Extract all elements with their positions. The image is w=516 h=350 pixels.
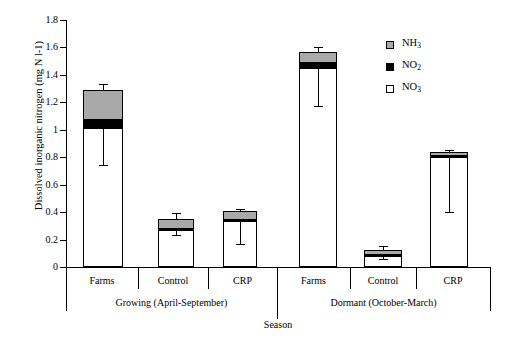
x-category-label: Control bbox=[350, 275, 416, 286]
bar-segment-nh3 bbox=[430, 152, 468, 155]
y-tick-mark bbox=[60, 102, 66, 103]
legend-swatch-no3 bbox=[386, 85, 394, 93]
legend-swatch-no2 bbox=[386, 63, 394, 71]
y-tick-label-wrap: 1.8 bbox=[0, 15, 58, 25]
y-axis-line bbox=[66, 20, 67, 268]
y-tick-mark bbox=[60, 185, 66, 186]
y-tick-label: 1.6 bbox=[0, 42, 58, 52]
legend-label-subscript: 2 bbox=[417, 63, 421, 72]
error-bar-no3-line bbox=[449, 157, 450, 212]
y-tick-label: 0.8 bbox=[0, 152, 58, 162]
x-group-separator bbox=[490, 289, 491, 311]
error-bar-no3-cap bbox=[236, 244, 245, 245]
x-category-label: Control bbox=[138, 275, 208, 286]
y-axis-title: Dissolved inorganic nitrogen (mg N l-1) bbox=[33, 16, 44, 236]
y-tick-label: 1 bbox=[0, 125, 58, 135]
x-category-label: CRP bbox=[208, 275, 277, 286]
y-tick-label-wrap: 0.4 bbox=[0, 207, 58, 217]
y-tick-label: 0.2 bbox=[0, 235, 58, 245]
x-category-label: CRP bbox=[416, 275, 490, 286]
y-tick-label-wrap: 1.2 bbox=[0, 97, 58, 107]
bar-0 bbox=[83, 90, 123, 267]
x-category-label: Farms bbox=[277, 275, 350, 286]
error-bar-no3-cap bbox=[379, 259, 388, 260]
error-bar-total-cap bbox=[445, 150, 454, 151]
y-tick-mark bbox=[60, 157, 66, 158]
error-bar-total-cap bbox=[314, 47, 323, 48]
bar-1 bbox=[158, 219, 194, 267]
error-bar-total-cap bbox=[172, 213, 181, 214]
y-tick-label: 1.4 bbox=[0, 70, 58, 80]
y-tick-mark bbox=[60, 20, 66, 21]
y-tick-mark bbox=[60, 75, 66, 76]
y-tick-label-wrap: 0 bbox=[0, 262, 58, 272]
y-tick-label: 0.6 bbox=[0, 180, 58, 190]
y-tick-label: 1.2 bbox=[0, 97, 58, 107]
y-tick-label-wrap: 0.8 bbox=[0, 152, 58, 162]
x-axis-title: Season bbox=[66, 319, 490, 330]
error-bar-no3-line bbox=[240, 221, 241, 244]
bar-segment-nh3 bbox=[83, 90, 123, 120]
legend-label-subscript: 3 bbox=[417, 41, 421, 50]
y-tick-label-wrap: 0.2 bbox=[0, 235, 58, 245]
x-category-separator bbox=[490, 267, 491, 289]
y-tick-label: 0 bbox=[0, 262, 58, 272]
legend-label-subscript: 3 bbox=[417, 85, 421, 94]
bar-segment-nh3 bbox=[364, 250, 402, 255]
legend-label-no3: NO3 bbox=[402, 81, 421, 94]
x-category-label: Farms bbox=[66, 275, 138, 286]
error-bar-no3-line bbox=[103, 128, 104, 164]
x-axis-line bbox=[66, 267, 490, 268]
x-group-label: Growing (April-September) bbox=[66, 297, 277, 308]
y-tick-mark bbox=[60, 47, 66, 48]
legend-label-nh3: NH3 bbox=[402, 37, 421, 50]
y-tick-label: 0.4 bbox=[0, 207, 58, 217]
bar-segment-nh3 bbox=[299, 52, 337, 62]
error-bar-no3-cap bbox=[172, 235, 181, 236]
error-bar-no3-line bbox=[318, 68, 319, 106]
error-bar-no3-cap bbox=[314, 106, 323, 107]
error-bar-no3-cap bbox=[445, 212, 454, 213]
y-tick-label-wrap: 0.6 bbox=[0, 180, 58, 190]
x-group-label: Dormant (October-March) bbox=[277, 297, 490, 308]
legend-swatch-nh3 bbox=[386, 41, 394, 49]
y-tick-label: 1.8 bbox=[0, 15, 58, 25]
x-axis-title-tick bbox=[277, 311, 278, 319]
y-tick-mark bbox=[60, 240, 66, 241]
legend-label-no2: NO2 bbox=[402, 59, 421, 72]
y-tick-label-wrap: 1.6 bbox=[0, 42, 58, 52]
error-bar-no3-cap bbox=[99, 165, 108, 166]
y-tick-mark bbox=[60, 130, 66, 131]
error-bar-total-cap bbox=[99, 84, 108, 85]
y-tick-mark bbox=[60, 212, 66, 213]
y-tick-label-wrap: 1.4 bbox=[0, 70, 58, 80]
chart-figure: 00.20.40.60.811.21.41.61.8 Dissolved ino… bbox=[0, 0, 516, 350]
error-bar-total-cap bbox=[379, 246, 388, 247]
bar-segment-no2 bbox=[83, 120, 123, 128]
y-tick-label-wrap: 1 bbox=[0, 125, 58, 135]
error-bar-total-cap bbox=[236, 209, 245, 210]
bar-segment-nh3 bbox=[158, 219, 194, 229]
bar-segment-nh3 bbox=[223, 211, 257, 221]
